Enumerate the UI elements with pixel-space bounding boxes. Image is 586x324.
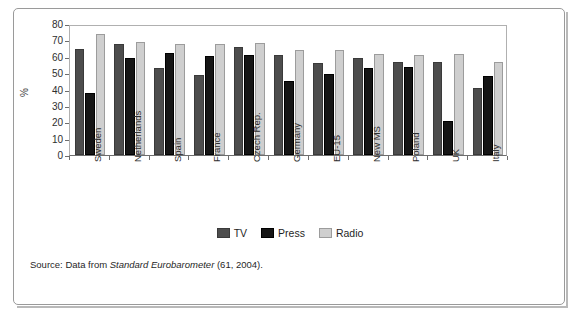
x-axis-label: Germany bbox=[292, 123, 302, 162]
legend-label: Radio bbox=[336, 227, 363, 239]
x-tick-mark bbox=[109, 156, 110, 160]
legend-label: Press bbox=[278, 227, 305, 239]
bar-group bbox=[349, 26, 389, 155]
bar-tv bbox=[353, 58, 363, 155]
x-tick-mark bbox=[228, 156, 229, 160]
x-axis-label: Spain bbox=[173, 138, 183, 162]
bar-press bbox=[483, 76, 493, 155]
x-tick-mark bbox=[188, 156, 189, 160]
y-tick-label: 30 bbox=[52, 102, 63, 112]
y-tick-label: 80 bbox=[52, 20, 63, 30]
bar-tv bbox=[194, 75, 204, 155]
bar-group bbox=[389, 26, 429, 155]
x-axis-label: Czech Rep. bbox=[252, 112, 262, 162]
x-axis-label: Sweden bbox=[93, 128, 103, 162]
source-italic-title: Standard Eurobarometer bbox=[110, 259, 215, 270]
x-axis-label: Italy bbox=[491, 145, 501, 162]
y-axis: 01020304050607080 bbox=[34, 25, 69, 156]
x-tick-mark bbox=[308, 156, 309, 160]
bar-tv bbox=[393, 62, 403, 155]
y-tick-label: 60 bbox=[52, 53, 63, 63]
x-tick-mark bbox=[507, 156, 508, 160]
bar-group bbox=[428, 26, 468, 155]
figure-shadow-right bbox=[566, 12, 568, 307]
y-tick-label: 10 bbox=[52, 135, 63, 145]
y-axis-title: % bbox=[19, 81, 30, 105]
bar-group bbox=[70, 26, 110, 155]
figure-frame: % 01020304050607080 TVPressRadio Source:… bbox=[13, 8, 565, 305]
bar-tv bbox=[274, 55, 284, 155]
bar-tv bbox=[154, 68, 164, 155]
source-note: Source: Data from Standard Eurobarometer… bbox=[30, 259, 263, 270]
bar-group bbox=[468, 26, 508, 155]
x-tick-mark bbox=[427, 156, 428, 160]
x-axis-label: Poland bbox=[411, 132, 421, 162]
bar-tv bbox=[114, 44, 124, 155]
legend-item-radio[interactable]: Radio bbox=[319, 227, 363, 239]
x-tick-mark bbox=[268, 156, 269, 160]
bar-chart: % 01020304050607080 TVPressRadio Source:… bbox=[14, 9, 566, 306]
y-tick-label: 20 bbox=[52, 118, 63, 128]
x-axis-label: Netherlands bbox=[133, 111, 143, 162]
bar-group bbox=[309, 26, 349, 155]
bar-tv bbox=[313, 63, 323, 155]
bar-tv bbox=[75, 49, 85, 155]
source-suffix: (61, 2004). bbox=[214, 259, 263, 270]
bar-group bbox=[110, 26, 150, 155]
bar-tv bbox=[473, 88, 483, 155]
x-tick-mark bbox=[348, 156, 349, 160]
source-prefix: Source: Data from bbox=[30, 259, 110, 270]
bar-group bbox=[269, 26, 309, 155]
legend-label: TV bbox=[234, 227, 247, 239]
y-tick-label: 40 bbox=[52, 86, 63, 96]
x-tick-mark bbox=[149, 156, 150, 160]
y-tick-label: 0 bbox=[57, 151, 63, 161]
bar-group bbox=[189, 26, 229, 155]
bar-tv bbox=[433, 62, 443, 155]
x-axis-label: New MS bbox=[372, 126, 382, 162]
legend-swatch-tv-icon bbox=[217, 228, 230, 238]
legend-item-press[interactable]: Press bbox=[261, 227, 305, 239]
x-axis-label: UK bbox=[451, 149, 461, 162]
bar-radio bbox=[494, 62, 504, 155]
x-axis-label: France bbox=[212, 132, 222, 162]
bar-group bbox=[150, 26, 190, 155]
x-axis-label: EU-15 bbox=[332, 135, 342, 162]
y-tick-label: 50 bbox=[52, 69, 63, 79]
chart-legend: TVPressRadio bbox=[14, 227, 566, 239]
x-tick-mark bbox=[69, 156, 70, 160]
y-tick-label: 70 bbox=[52, 36, 63, 46]
x-tick-mark bbox=[388, 156, 389, 160]
legend-swatch-radio-icon bbox=[319, 228, 332, 238]
figure-shadow-bottom bbox=[17, 306, 568, 308]
legend-item-tv[interactable]: TV bbox=[217, 227, 247, 239]
bar-group bbox=[229, 26, 269, 155]
bar-radio bbox=[454, 54, 464, 155]
legend-swatch-press-icon bbox=[261, 228, 274, 238]
x-tick-mark bbox=[467, 156, 468, 160]
bar-tv bbox=[234, 47, 244, 155]
